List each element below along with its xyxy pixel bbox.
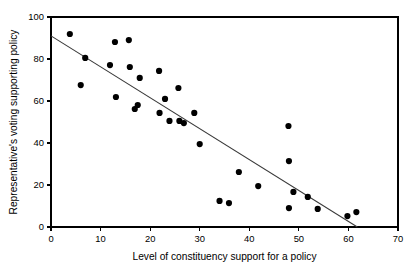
data-point: [175, 85, 181, 91]
data-point: [78, 82, 84, 88]
data-point: [286, 158, 292, 164]
data-point: [216, 198, 222, 204]
data-point: [286, 205, 292, 211]
x-tick-label-20: 20: [145, 233, 155, 244]
y-tick-label-60: 60: [34, 95, 44, 106]
data-point: [255, 183, 261, 189]
data-point: [112, 39, 118, 45]
plot-frame: [51, 17, 398, 227]
data-point: [82, 55, 88, 61]
data-point: [126, 37, 132, 43]
data-point: [67, 31, 73, 37]
x-tick-label-30: 30: [194, 233, 204, 244]
data-point: [127, 64, 133, 70]
data-point: [197, 141, 203, 147]
data-point: [181, 120, 187, 126]
data-point: [137, 75, 143, 81]
x-tick-label-0: 0: [48, 233, 53, 244]
data-point: [191, 110, 197, 116]
data-point: [315, 206, 321, 212]
data-point: [344, 213, 350, 219]
x-axis-title: Level of constituency support for a poli…: [132, 251, 317, 262]
x-tick-label-70: 70: [393, 233, 403, 244]
data-point: [162, 96, 168, 102]
y-tick-label-100: 100: [28, 11, 44, 22]
data-point: [305, 194, 311, 200]
x-tick-label-60: 60: [343, 233, 353, 244]
y-tick-label-80: 80: [34, 53, 44, 64]
data-point: [236, 169, 242, 175]
data-point: [226, 200, 232, 206]
y-tick-label-0: 0: [39, 221, 44, 232]
data-point: [107, 62, 113, 68]
data-point: [353, 209, 359, 215]
y-axis-title: Representative's voting supporting polic…: [8, 29, 19, 215]
x-tick-label-10: 10: [95, 233, 105, 244]
data-point: [135, 102, 141, 108]
y-tick-label-40: 40: [34, 137, 44, 148]
y-tick-label-20: 20: [34, 179, 44, 190]
data-point-group: [67, 31, 360, 219]
regression-line: [51, 36, 357, 227]
data-point: [166, 118, 172, 124]
data-point: [285, 123, 291, 129]
data-point: [113, 94, 119, 100]
data-point: [290, 189, 296, 195]
scatter-plot-figure: 020406080100010203040506070Level of cons…: [0, 0, 420, 268]
data-point: [156, 68, 162, 74]
x-tick-label-40: 40: [244, 233, 254, 244]
plot-canvas: 020406080100010203040506070Level of cons…: [0, 0, 420, 268]
data-point: [156, 110, 162, 116]
x-tick-label-50: 50: [294, 233, 304, 244]
